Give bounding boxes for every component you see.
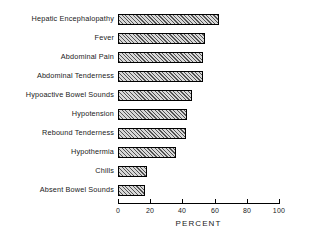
- bar-abdominal-tenderness: [118, 71, 203, 82]
- axis-tick: [182, 199, 183, 204]
- bar-container: [118, 71, 203, 82]
- bar-rebound-tenderness: [118, 128, 186, 139]
- chart-row: Fever: [0, 32, 315, 51]
- category-label: Hepatic Encephalopathy: [32, 13, 114, 24]
- x-axis: 020406080100 PERCENT: [0, 203, 315, 240]
- category-label: Hypoactive Bowel Sounds: [26, 89, 114, 100]
- axis-tick: [118, 199, 119, 204]
- bar-hepatic-encephalopathy: [118, 14, 219, 25]
- chart-plot-area: Hepatic Encephalopathy Fever Abdominal P…: [0, 13, 315, 203]
- bar-container: [118, 109, 187, 120]
- bar-abdominal-pain: [118, 52, 203, 63]
- bar-hypotension: [118, 109, 187, 120]
- axis-tick: [150, 199, 151, 204]
- category-label: Abdominal Tenderness: [37, 70, 114, 81]
- axis-tick-label: 40: [178, 207, 186, 214]
- chart-row: Hypoactive Bowel Sounds: [0, 89, 315, 108]
- category-label: Chills: [95, 165, 114, 176]
- chart-row: Hypotension: [0, 108, 315, 127]
- bar-container: [118, 185, 145, 196]
- axis-tick: [279, 199, 280, 204]
- bar-absent-bowel-sounds: [118, 185, 145, 196]
- axis-title: PERCENT: [118, 219, 279, 228]
- category-label: Abdominal Pain: [61, 51, 114, 62]
- axis-tick-label: 60: [211, 207, 219, 214]
- category-label: Rebound Tenderness: [42, 127, 114, 138]
- chart-row: Abdominal Tenderness: [0, 70, 315, 89]
- bar-fever: [118, 33, 205, 44]
- chart-row: Abdominal Pain: [0, 51, 315, 70]
- category-label: Hypothermia: [71, 146, 114, 157]
- chart-row: Chills: [0, 165, 315, 184]
- bar-container: [118, 90, 192, 101]
- chart-row: Rebound Tenderness: [0, 127, 315, 146]
- bar-container: [118, 166, 147, 177]
- bar-hypoactive-bowel-sounds: [118, 90, 192, 101]
- axis-tick-label: 20: [146, 207, 154, 214]
- chart-row: Hepatic Encephalopathy: [0, 13, 315, 32]
- axis-tick-label: 100: [273, 207, 285, 214]
- category-label: Absent Bowel Sounds: [40, 184, 114, 195]
- bar-container: [118, 52, 203, 63]
- axis-tick-label: 0: [116, 207, 120, 214]
- bar-hypothermia: [118, 147, 176, 158]
- category-label: Fever: [95, 32, 114, 43]
- bar-container: [118, 147, 176, 158]
- bar-container: [118, 128, 186, 139]
- axis-tick: [247, 199, 248, 204]
- category-label: Hypotension: [72, 108, 114, 119]
- axis-line: [118, 203, 280, 204]
- axis-tick: [215, 199, 216, 204]
- bar-container: [118, 14, 219, 25]
- axis-tick-label: 80: [243, 207, 251, 214]
- chart-row: Hypothermia: [0, 146, 315, 165]
- chart-row: Absent Bowel Sounds: [0, 184, 315, 203]
- bar-chills: [118, 166, 147, 177]
- bar-container: [118, 33, 205, 44]
- bar-chart: Hepatic Encephalopathy Fever Abdominal P…: [0, 0, 315, 240]
